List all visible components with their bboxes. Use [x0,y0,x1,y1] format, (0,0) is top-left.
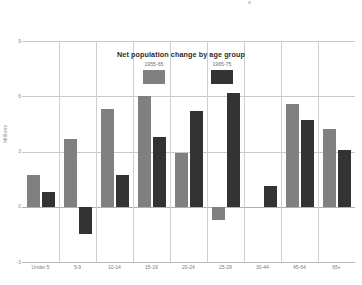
bar-1965-75-20-24 [190,111,203,207]
chart-container: 9630-3 Millions Under 55-910-1415-1920-2… [0,0,362,285]
bar-1955-65-25-29 [212,207,225,220]
bar-1965-75-5-9 [79,207,92,235]
gridline-x-8 [318,41,319,262]
x-tick-label-20-24: 20-24 [170,265,207,270]
x-tick-label-5-9: 5-9 [59,265,96,270]
gridline-y-9 [22,41,355,42]
legend-item-series-0[interactable]: 1955-65 [132,62,176,84]
legend-item-series-1[interactable]: 1965-75 [200,62,244,84]
bar-1955-65-65+ [323,129,336,206]
chart-title: Net population change by age group [0,50,362,59]
decorative-top-mark [248,1,251,4]
gridline-x-2 [96,41,97,262]
bar-1965-75-30-44 [264,186,277,206]
x-tick-label-25-29: 25-29 [207,265,244,270]
bar-1955-65-10-14 [101,109,114,207]
y-tick-label: 0 [5,204,21,209]
bar-1965-75-15-19 [153,137,166,207]
y-axis-title: Millions [2,125,8,143]
x-tick-label-Under 5: Under 5 [22,265,59,270]
gridline-y--3 [22,262,355,263]
bar-1965-75-65+ [338,150,351,207]
gridline-y-0 [22,207,355,208]
gridline-y-6 [22,96,355,97]
plot-area [22,41,355,262]
y-tick-label: 9 [5,39,21,44]
legend-label-series-0: 1955-65 [132,62,176,67]
bar-1955-65-20-24 [175,153,188,206]
x-tick-label-15-19: 15-19 [133,265,170,270]
bar-1955-65-15-19 [138,96,151,207]
x-tick-label-65+: 65+ [318,265,355,270]
bar-1965-75-10-14 [116,175,129,206]
x-tick-label-30-44: 30-44 [244,265,281,270]
bar-1965-75-45-64 [301,120,314,207]
bar-1955-65-Under 5 [27,175,40,206]
x-tick-label-10-14: 10-14 [96,265,133,270]
gridline-x-7 [281,41,282,262]
legend-swatch-series-1 [211,70,233,84]
bar-1955-65-5-9 [64,139,77,207]
y-tick-label: 6 [5,94,21,99]
y-tick-label: -3 [5,260,21,265]
legend-label-series-1: 1965-75 [200,62,244,67]
gridline-x-1 [59,41,60,262]
gridline-x-6 [244,41,245,262]
legend-swatch-series-0 [143,70,165,84]
y-tick-label: 3 [5,149,21,154]
bar-1965-75-25-29 [227,93,240,207]
bar-1965-75-Under 5 [42,192,55,207]
x-tick-label-45-64: 45-64 [281,265,318,270]
bar-1955-65-45-64 [286,104,299,207]
